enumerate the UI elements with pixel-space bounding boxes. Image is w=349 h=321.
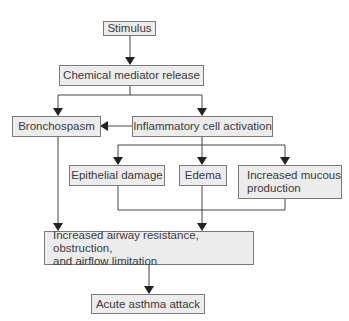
node-chemical-mediator-release: Chemical mediator release — [59, 65, 204, 86]
node-label: Bronchospasm — [18, 120, 95, 133]
node-label-line-1: Increased mucous — [247, 169, 341, 182]
node-stimulus: Stimulus — [103, 21, 156, 36]
node-epithelial-damage: Epithelial damage — [69, 165, 165, 186]
node-label-line-2: production — [247, 182, 341, 195]
node-acute-asthma-attack: Acute asthma attack — [91, 294, 205, 314]
node-increased-mucous-production: Increased mucous production — [238, 165, 342, 199]
node-label-line-2: and airflow limitation — [53, 255, 253, 268]
node-increased-airway-resistance: Increased airway resistance, obstruction… — [44, 231, 254, 265]
node-label: Edema — [185, 169, 221, 182]
node-label-line-1: Increased airway resistance, obstruction… — [53, 229, 253, 255]
node-label: Stimulus — [107, 22, 151, 35]
node-label: Inflammatory cell activation — [133, 120, 272, 133]
node-label: Acute asthma attack — [96, 298, 200, 311]
node-edema: Edema — [179, 165, 227, 186]
node-label: Epithelial damage — [71, 169, 162, 182]
connector-lines — [0, 0, 349, 321]
node-label: Chemical mediator release — [63, 69, 200, 82]
node-bronchospasm: Bronchospasm — [12, 116, 101, 137]
node-inflammatory-cell-activation: Inflammatory cell activation — [132, 116, 273, 137]
